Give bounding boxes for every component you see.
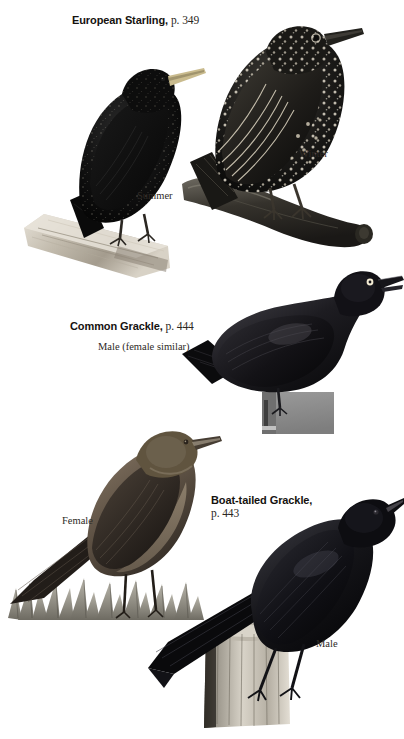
field-guide-plate: European Starling, p. 349 Summer Winter …	[0, 0, 404, 739]
caption-starling-summer: Summer	[137, 190, 173, 201]
caption-boat-tailed-male: Male	[316, 638, 338, 649]
caption-boat-tailed-female: Female	[62, 515, 93, 526]
species-label-european-starling: European Starling, p. 349	[72, 14, 199, 27]
page-ref-common-grackle: p. 444	[166, 320, 194, 332]
figure-boat-tailed-grackle-male	[148, 492, 404, 739]
species-name-common-grackle: Common Grackle,	[70, 320, 163, 332]
caption-common-grackle-sex: Male (female similar)	[98, 341, 190, 352]
eye	[161, 77, 165, 81]
figure-european-starling-winter	[178, 12, 400, 252]
figure-common-grackle-male	[178, 258, 402, 438]
page-ref-european-starling: p. 349	[171, 14, 199, 26]
species-label-boat-tailed-grackle: Boat-tailed Grackle, p. 443	[211, 494, 312, 520]
species-name-european-starling: European Starling,	[72, 14, 168, 26]
species-label-common-grackle: Common Grackle, p. 444	[70, 320, 194, 333]
eye	[313, 35, 318, 40]
caption-starling-winter: Winter	[299, 148, 328, 159]
eye	[184, 440, 189, 445]
species-name-boat-tailed-grackle: Boat-tailed Grackle,	[211, 494, 312, 506]
figure-european-starling-summer	[18, 32, 198, 282]
page-ref-boat-tailed-grackle: p. 443	[211, 507, 312, 520]
